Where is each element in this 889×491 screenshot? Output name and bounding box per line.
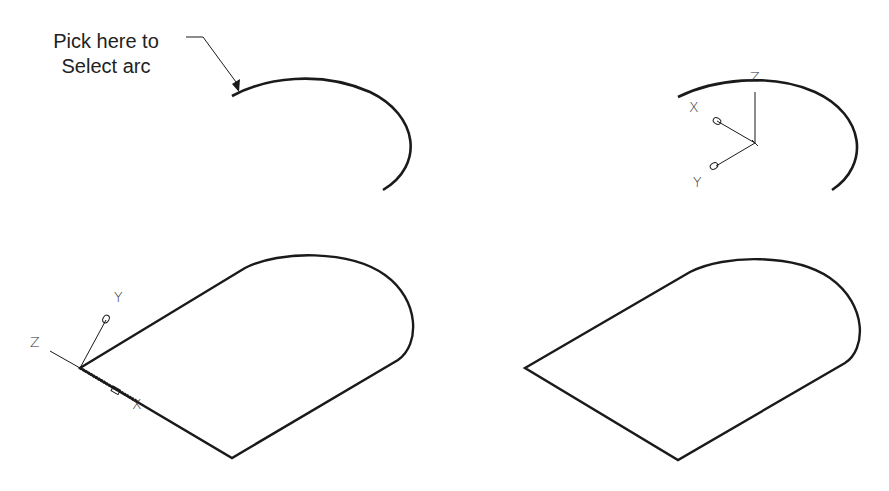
panel-2-arc-ucs: [678, 80, 857, 190]
panel-3-profile-ucs: [50, 255, 413, 458]
ucs-icon: [50, 314, 138, 402]
panel-4-profile: [525, 259, 860, 460]
leader-line: [186, 37, 236, 82]
z-axis-line: [50, 351, 80, 368]
closed-profile: [525, 259, 860, 460]
z-axis-label: Z: [30, 334, 40, 350]
y-axis-label: Y: [693, 174, 702, 190]
x-axis-line: [80, 368, 138, 402]
z-axis-label: Z: [750, 69, 760, 85]
y-axis-label: Y: [114, 289, 123, 305]
arc: [678, 80, 857, 190]
arrowhead-icon: [232, 79, 240, 92]
ucs-icon: [709, 92, 758, 171]
annotation-line-1: Pick here to: [34, 29, 178, 53]
selectable-arc[interactable]: [232, 79, 411, 190]
panel-1-arc: [186, 37, 411, 190]
annotation-line-2: Select arc: [34, 54, 178, 78]
x-axis-line: [717, 121, 755, 143]
y-axis-line: [716, 143, 755, 166]
x-axis-label: X: [689, 99, 699, 115]
x-axis-label: X: [132, 396, 142, 412]
y-axis-arrow-icon: [101, 314, 110, 324]
closed-profile: [80, 255, 413, 458]
y-axis-arrow-icon: [709, 161, 719, 170]
